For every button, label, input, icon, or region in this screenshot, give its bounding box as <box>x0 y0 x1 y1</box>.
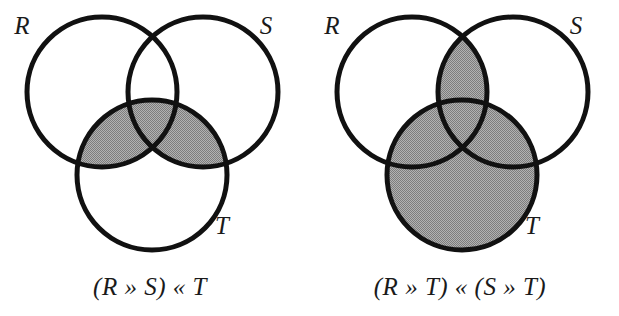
set-label-R-right: R <box>323 12 339 39</box>
set-label-S-right: S <box>570 12 583 39</box>
caption-right: (R » T) « (S » T) <box>374 273 546 301</box>
venn-diagram-figure: R S T (R » S) « T R S T <box>0 0 619 316</box>
venn-diagram-right: R S T (R » T) « (S » T) <box>323 12 588 301</box>
set-label-T-right: T <box>525 212 541 239</box>
set-label-T-left: T <box>215 212 231 239</box>
shaded-region-right <box>387 17 588 250</box>
set-label-S-left: S <box>260 12 273 39</box>
venn-diagram-canvas: R S T (R » S) « T R S T <box>0 0 619 316</box>
caption-left: (R » S) « T <box>93 273 208 301</box>
set-label-R-left: R <box>13 12 29 39</box>
venn-diagram-left: R S T (R » S) « T <box>13 12 278 301</box>
